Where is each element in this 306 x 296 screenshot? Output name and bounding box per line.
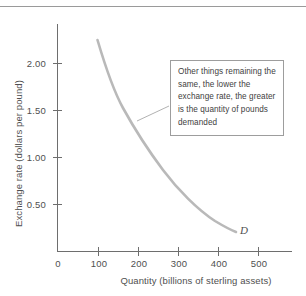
x-tick-label-500: 500 — [244, 258, 274, 269]
x-tick-label-100: 100 — [84, 258, 114, 269]
x-tick-label-0: 0 — [43, 258, 73, 269]
demand-curve-label: D — [240, 224, 248, 236]
x-axis-title: Quantity (billions of sterling assets) — [86, 275, 306, 286]
chart-canvas — [0, 0, 306, 296]
x-tick-label-400: 400 — [204, 258, 234, 269]
x-tick-label-300: 300 — [164, 258, 194, 269]
y-axis-title: Exchange rate (dollars per pound) — [13, 74, 24, 234]
y-tick-label-2.00: 2.00 — [12, 58, 46, 69]
figure-container: 2.00 1.50 1.00 0.50 0 100 200 300 400 50… — [0, 0, 306, 296]
x-tick-label-200: 200 — [124, 258, 154, 269]
callout-leader-line — [137, 106, 169, 121]
annotation-callout-box: Other things remaining the same, the low… — [170, 60, 284, 136]
